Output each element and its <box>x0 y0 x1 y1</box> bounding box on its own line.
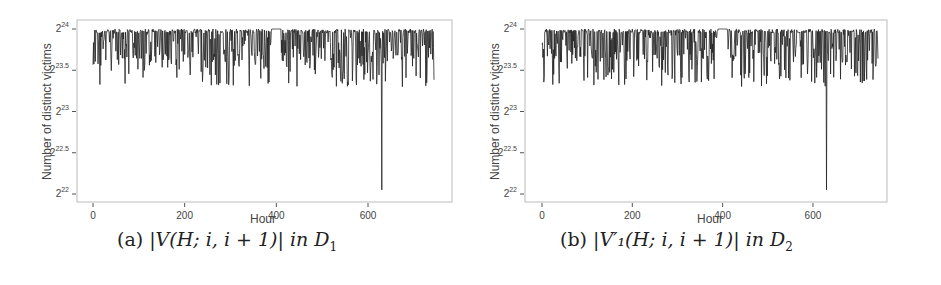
y-tick-label: 224 <box>504 21 517 34</box>
caption-b: (b) |V′₁(H; i, i + 1)| in D2 <box>560 228 793 254</box>
caption-b-subscript: 2 <box>785 240 793 254</box>
y-tick-label: 222 <box>504 186 517 199</box>
x-tick-label: 0 <box>90 210 96 221</box>
y-axis-label-b: Number of distinct victims <box>488 43 502 180</box>
series-line <box>93 29 434 190</box>
caption-a: (a) |V(H; i, i + 1)| in D1 <box>117 228 337 254</box>
x-tick-label: 200 <box>176 210 193 221</box>
x-tick-label: 0 <box>539 210 545 221</box>
panel-b: 222222.5223223.52240200400600 Number of … <box>470 0 941 285</box>
x-tick-label: 600 <box>805 210 822 221</box>
x-tick-label: 200 <box>624 210 641 221</box>
y-tick-label: 224 <box>56 21 69 34</box>
time-series-plot-b: 222222.5223223.52240200400600 <box>470 0 941 230</box>
caption-a-math: |V(H; i, i + 1)| in D <box>149 228 329 250</box>
x-axis-label-b: Hour <box>697 212 723 226</box>
y-tick-label: 223 <box>504 104 517 117</box>
caption-a-prefix: (a) <box>117 228 143 250</box>
y-tick-label: 223 <box>56 104 69 117</box>
series-line <box>542 29 878 190</box>
x-tick-label: 600 <box>360 210 377 221</box>
caption-b-math: |V′₁(H; i, i + 1)| in D <box>593 228 785 250</box>
caption-a-subscript: 1 <box>330 240 338 254</box>
time-series-plot-a: 222222.5223223.52240200400600 <box>0 0 470 230</box>
y-tick-label: 222 <box>56 186 69 199</box>
x-axis-label-a: Hour <box>250 212 276 226</box>
panel-a: 222222.5223223.52240200400600 Number of … <box>0 0 470 285</box>
y-axis-label-a: Number of distinct victims <box>40 43 54 180</box>
caption-b-prefix: (b) <box>560 228 587 250</box>
plot-frame <box>525 20 887 202</box>
